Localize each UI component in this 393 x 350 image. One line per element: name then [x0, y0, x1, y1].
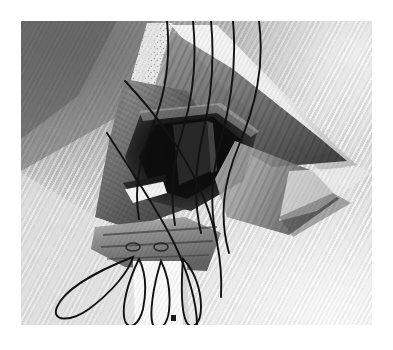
figure-title: Surgical exposure illustration [0, 0, 1, 1]
orientation-mark [171, 315, 176, 321]
figure-image [21, 21, 372, 325]
surgical-illustration-svg [21, 21, 372, 325]
figure-alt-text: Grayscale surgical photograph-style illu… [0, 0, 1, 1]
page-root: Grayscale surgical photograph-style illu… [0, 0, 393, 350]
figure-caption [21, 328, 372, 348]
